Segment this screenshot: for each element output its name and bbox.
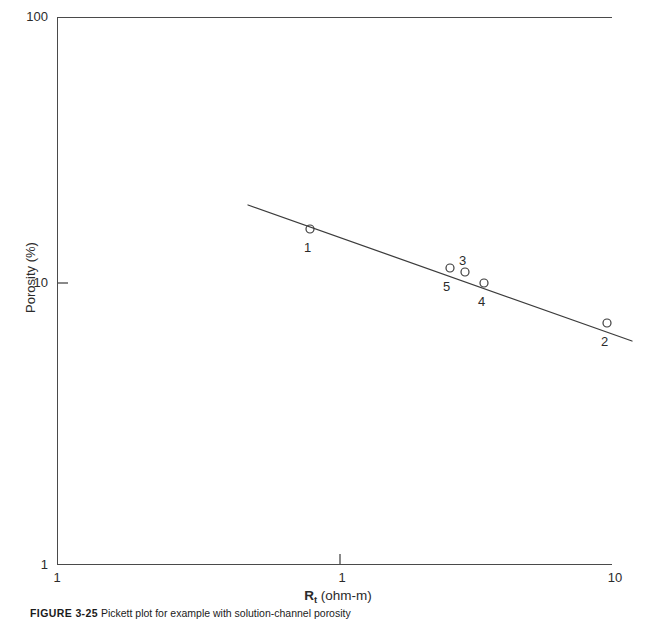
data-point-label: 1 xyxy=(304,241,311,254)
figure-caption-text: Pickett plot for example with solution-c… xyxy=(101,607,351,619)
y-tick-label-100: 100 xyxy=(12,10,48,23)
trend-line xyxy=(248,205,632,341)
data-point-label: 5 xyxy=(443,280,450,293)
axis-tick-marks xyxy=(57,283,340,565)
x-axis-title: Rt (ohm-m) xyxy=(248,588,428,603)
data-point-label: 3 xyxy=(459,254,466,267)
x-tick-label-mid-1: 1 xyxy=(327,571,357,584)
data-point-marker xyxy=(306,225,314,233)
y-axis-title: Porosity (%) xyxy=(23,218,38,338)
data-point-marker xyxy=(480,279,488,287)
x-axis-title-symbol: R xyxy=(304,588,314,603)
data-point-markers xyxy=(306,225,611,327)
figure-caption: FIGURE 3-25 Pickett plot for example wit… xyxy=(30,607,630,619)
x-tick-label-10: 10 xyxy=(600,571,630,584)
y-tick-label-1: 1 xyxy=(12,558,48,571)
data-point-marker xyxy=(461,268,469,276)
plot-data-layer xyxy=(0,0,652,619)
data-point-marker xyxy=(446,264,454,272)
pickett-plot-figure: 100 10 1 1 1 10 Porosity (%) Rt (ohm-m) … xyxy=(0,0,652,619)
x-axis-title-subscript: t xyxy=(314,594,317,605)
data-point-label: 2 xyxy=(601,335,608,348)
figure-caption-number: FIGURE 3-25 xyxy=(30,607,98,619)
x-tick-label-1: 1 xyxy=(42,571,72,584)
x-axis-title-units: (ohm-m) xyxy=(321,588,372,603)
data-point-label: 4 xyxy=(478,295,485,308)
data-point-marker xyxy=(603,319,611,327)
